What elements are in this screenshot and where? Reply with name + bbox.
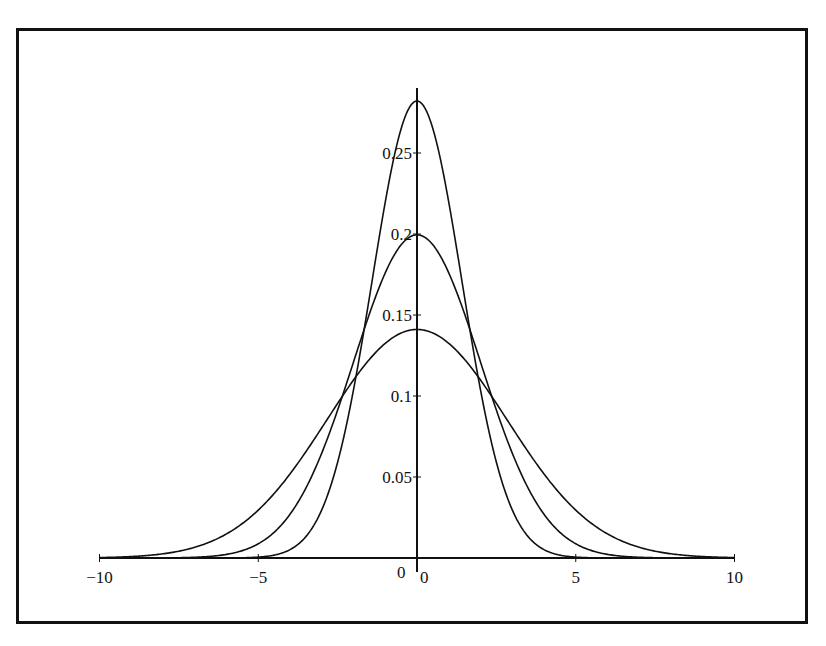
y-tick-label: 0.1 bbox=[391, 387, 412, 406]
x-tick-label: 5 bbox=[572, 568, 581, 587]
origin-y-label: 0 bbox=[397, 563, 406, 582]
x-tick-label: −10 bbox=[86, 568, 113, 587]
y-tick-label: 0.15 bbox=[382, 306, 412, 325]
y-tick-label: 0.25 bbox=[382, 144, 412, 163]
x-tick-label: 10 bbox=[726, 568, 743, 587]
x-tick-label: −5 bbox=[249, 568, 267, 587]
tick-labels: 0 0 −10−55100.050.10.150.20.25 bbox=[86, 144, 743, 587]
y-tick-label: 0.05 bbox=[382, 468, 412, 487]
chart-plot: 0 0 −10−55100.050.10.150.20.25 bbox=[0, 0, 826, 646]
y-tick-label: 0.2 bbox=[391, 225, 412, 244]
origin-x-label: 0 bbox=[420, 568, 429, 587]
